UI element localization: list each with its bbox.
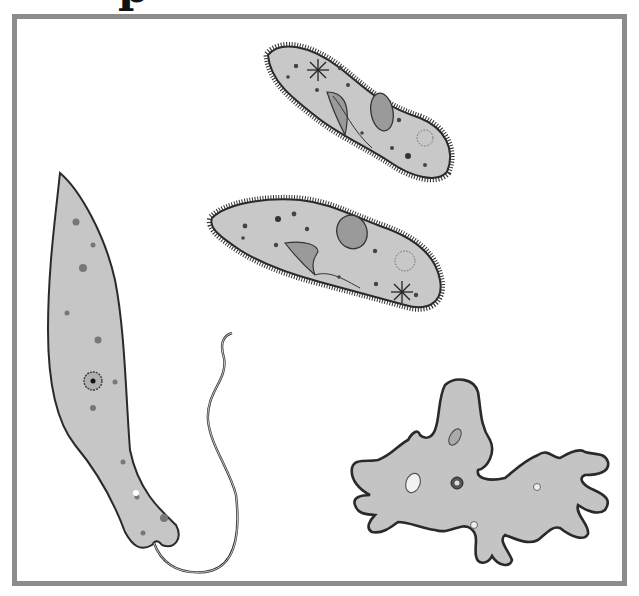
star-icon	[391, 281, 413, 303]
paramecium-body	[211, 199, 440, 307]
paramecium-top	[268, 46, 450, 177]
euglena-body	[48, 173, 179, 548]
amoeba-body	[352, 380, 608, 565]
eyespot	[133, 490, 139, 496]
paramecium-center	[211, 199, 440, 307]
amoeba	[352, 380, 608, 565]
euglena-nucleus	[84, 372, 102, 390]
star-icon	[307, 59, 329, 81]
euglena	[48, 173, 238, 572]
amoeba-nucleus	[451, 477, 463, 489]
protists-illustration	[0, 0, 639, 596]
